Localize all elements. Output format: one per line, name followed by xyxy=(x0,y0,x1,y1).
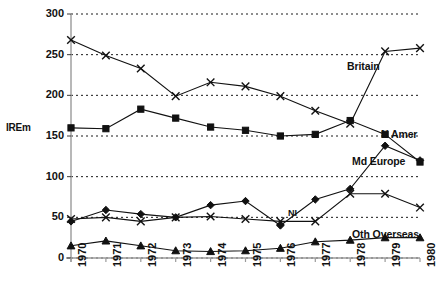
data-point-diamond xyxy=(102,206,109,213)
series-label-md-europe: Md Europe xyxy=(352,155,405,167)
y-tick-label: 250 xyxy=(46,48,64,60)
data-point-square xyxy=(277,133,283,139)
data-point-square xyxy=(242,127,248,133)
y-tick-label: 100 xyxy=(46,170,64,182)
data-point-square xyxy=(312,131,318,137)
y-tick-label: 50 xyxy=(52,210,64,222)
x-tick-label: 1977 xyxy=(320,243,332,267)
series-label-britain: Britain xyxy=(347,60,380,72)
y-tick-label: 200 xyxy=(46,88,64,100)
series-label-oth-overseas: Oth Overseas xyxy=(352,228,419,240)
y-tick-label: 150 xyxy=(46,129,64,141)
data-point-square xyxy=(347,117,353,123)
y-tick-label: 0 xyxy=(58,251,64,263)
x-tick-label: 1972 xyxy=(146,243,158,267)
series-britain xyxy=(67,36,424,127)
x-tick-label: 1980 xyxy=(425,243,437,267)
series-ni xyxy=(67,190,424,225)
data-point-square xyxy=(103,126,109,132)
gridlines xyxy=(71,14,420,258)
data-point-diamond xyxy=(242,197,249,204)
series-line xyxy=(71,40,420,124)
x-tick-label: 1978 xyxy=(355,243,367,267)
data-point-square xyxy=(208,124,214,130)
x-tick-label: 1970 xyxy=(76,243,88,267)
series-label-ni: NI xyxy=(288,208,297,218)
x-tick-label: 1974 xyxy=(216,243,228,267)
y-tick-label: 300 xyxy=(46,7,64,19)
x-tick-label: 1979 xyxy=(390,243,402,267)
x-tick-label: 1971 xyxy=(111,243,123,267)
series-label-n-amer: N Amer xyxy=(381,128,417,140)
axes xyxy=(66,14,420,262)
x-tick-label: 1973 xyxy=(181,243,193,267)
x-tick-label: 1976 xyxy=(285,243,297,267)
data-point-square xyxy=(173,115,179,121)
data-point-square xyxy=(138,106,144,112)
data-point-square xyxy=(68,125,74,131)
x-tick-label: 1975 xyxy=(251,243,263,267)
data-point-triangle xyxy=(102,237,110,244)
data-point-diamond xyxy=(207,201,214,208)
data-point-diamond xyxy=(137,210,144,217)
